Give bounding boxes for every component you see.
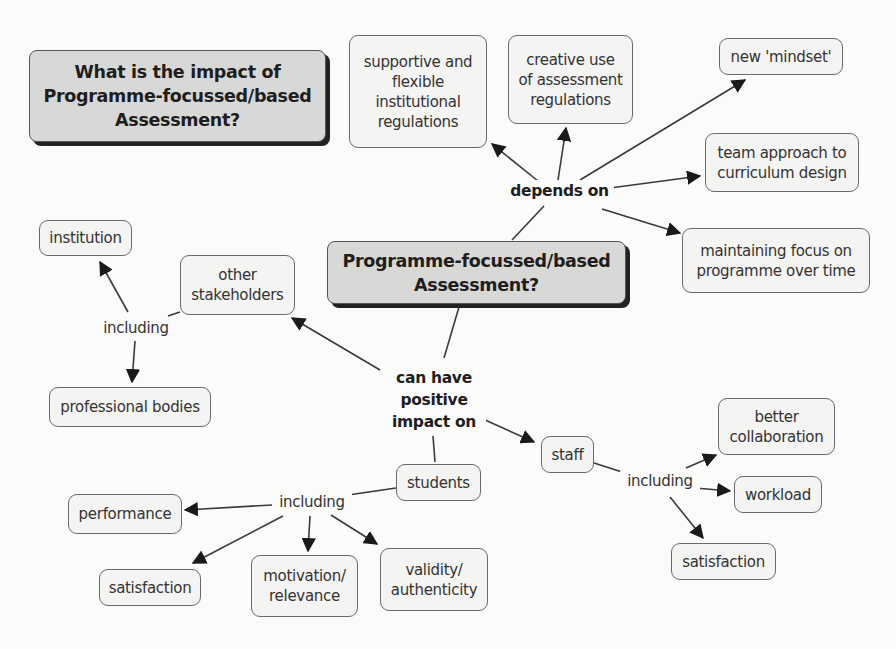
node-institution: institution <box>39 220 132 256</box>
node-better-collaboration: better collaboration <box>718 398 835 455</box>
node-professional-bodies: professional bodies <box>49 387 211 427</box>
link-label-can-have-positive-impact: can have positive impact on <box>382 367 486 433</box>
node-new-mindset: new 'mindset' <box>719 38 843 75</box>
node-team-approach: team approach to curriculum design <box>705 133 859 192</box>
node-workload: workload <box>734 476 822 513</box>
node-creative-use: creative use of assessment regulations <box>508 35 633 124</box>
question-title-box: What is the impact of Programme-focussed… <box>29 50 326 142</box>
link-label-including-staff: including <box>620 471 700 491</box>
link-label-including-students: including <box>272 492 352 512</box>
node-staff-satisfaction: satisfaction <box>671 543 776 580</box>
node-other-stakeholders: other stakeholders <box>180 255 295 315</box>
node-performance: performance <box>68 494 182 534</box>
node-students: students <box>396 464 481 501</box>
central-concept-node: Programme-focussed/based Assessment? <box>327 241 626 304</box>
node-supportive-regulations: supportive and flexible institutional re… <box>349 35 487 148</box>
node-motivation-relevance: motivation/ relevance <box>251 555 358 617</box>
node-validity-authenticity: validity/ authenticity <box>380 548 488 611</box>
link-label-including-stakeholders: including <box>96 318 176 338</box>
node-maintaining-focus: maintaining focus on programme over time <box>682 228 870 293</box>
concept-map-canvas: What is the impact of Programme-focussed… <box>0 0 896 649</box>
node-staff: staff <box>541 436 594 473</box>
link-label-depends-on: depends on <box>505 180 614 202</box>
node-student-satisfaction: satisfaction <box>99 569 201 606</box>
